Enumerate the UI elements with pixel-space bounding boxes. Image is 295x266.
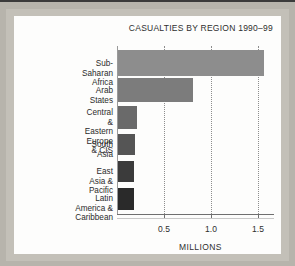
x-axis-line	[117, 214, 274, 215]
bar-label-east-asia-pacific: East Asia & Pacific	[89, 167, 113, 196]
axis-tick-0.5	[164, 214, 165, 218]
bar-south-asia: South Asia	[118, 134, 135, 155]
bar-central-eastern-europe-cis: Central & Eastern Europe & CIS	[118, 106, 137, 129]
bar-arab-states: Arab States	[118, 78, 193, 102]
axis-tick-label-1.0: 1.0	[205, 224, 217, 234]
x-axis-line-secondary	[117, 218, 274, 219]
axis-tick-1.5	[258, 214, 259, 218]
axis-tick-1.0	[211, 214, 212, 218]
bar-east-asia-pacific: East Asia & Pacific	[118, 161, 134, 182]
chart-title: CASUALTIES BY REGION 1990–99	[129, 23, 273, 33]
axis-tick-label-0.5: 0.5	[158, 224, 170, 234]
chart-canvas: CASUALTIES BY REGION 1990–99 Sub-Saharan…	[14, 16, 281, 254]
figure-frame: CASUALTIES BY REGION 1990–99 Sub-Saharan…	[0, 0, 295, 266]
axis-tick-label-1.5: 1.5	[252, 224, 264, 234]
bar-label-sub-saharan-africa: Sub-Saharan Africa	[82, 59, 113, 88]
x-axis-title: MILLIONS	[179, 242, 222, 252]
plot-area: Sub-Saharan Africa Arab States Central &…	[117, 46, 272, 214]
bar-latin-america-caribbean: Latin America & Caribbean	[118, 188, 134, 210]
bar-sub-saharan-africa: Sub-Saharan Africa	[118, 50, 264, 76]
bar-label-arab-states: Arab States	[90, 86, 113, 105]
bar-label-south-asia: South Asia	[92, 140, 113, 159]
bar-label-latin-america-caribbean: Latin America & Caribbean	[75, 194, 113, 223]
